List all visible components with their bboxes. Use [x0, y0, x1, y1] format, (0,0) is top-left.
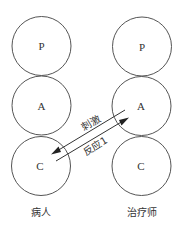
- patient-child-letter: C: [36, 160, 43, 172]
- therapist-parent-letter: P: [139, 41, 145, 53]
- arrowhead-icon: [119, 118, 129, 126]
- therapist-label: 治疗师: [127, 206, 157, 218]
- patient-parent-letter: P: [38, 40, 44, 52]
- therapist-column: P A C 治疗师: [112, 17, 172, 218]
- arrowhead-icon: [51, 147, 61, 155]
- therapist-adult-letter: A: [137, 100, 145, 112]
- therapist-child-letter: C: [137, 160, 144, 172]
- ego-state-transaction-diagram: P A C 病人 P A C 治疗师 刺激 反应1: [0, 0, 182, 228]
- patient-label: 病人: [31, 206, 51, 218]
- patient-adult-letter: A: [38, 100, 46, 112]
- patient-column: P A C 病人: [12, 17, 72, 219]
- stimulus-label: 刺激: [79, 112, 102, 133]
